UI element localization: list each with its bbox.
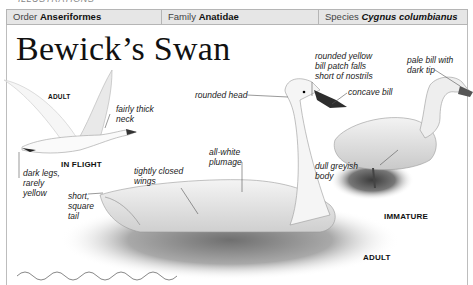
- label-line: dark legs,: [23, 168, 60, 178]
- label-line: concave bill: [348, 87, 392, 97]
- label-line: rounded yellow: [315, 51, 373, 61]
- label-rounded-head: rounded head: [195, 90, 247, 100]
- label-all-white-plumage: all-white plumage: [209, 147, 242, 167]
- label-short-square-tail: short, square tail: [68, 191, 94, 221]
- label-line: all-white: [209, 147, 242, 157]
- caption-in-flight: IN FLIGHT: [61, 160, 102, 169]
- label-line: rarely: [23, 178, 60, 188]
- label-dark-legs: dark legs, rarely yellow: [23, 168, 60, 198]
- label-line: tightly closed: [134, 166, 183, 176]
- label-line: fairly thick: [116, 104, 154, 114]
- label-line: wings: [134, 176, 183, 186]
- label-line: dull greyish: [315, 161, 358, 171]
- label-line: body: [315, 171, 358, 181]
- label-bill-patch: rounded yellow bill patch falls short of…: [315, 51, 373, 81]
- caption-adult: ADULT: [363, 253, 391, 262]
- label-line: dark tip: [407, 65, 453, 75]
- label-line: rounded head: [195, 90, 247, 100]
- label-fairly-thick-neck: fairly thick neck: [116, 104, 154, 124]
- label-line: short,: [68, 191, 94, 201]
- label-line: square: [68, 201, 94, 211]
- label-line: yellow: [23, 188, 60, 198]
- label-line: neck: [116, 114, 154, 124]
- label-dull-greyish-body: dull greyish body: [315, 161, 358, 181]
- label-pale-bill: pale bill with dark tip: [407, 55, 453, 75]
- caption-immature: IMMATURE: [384, 212, 428, 221]
- label-concave-bill: concave bill: [348, 87, 392, 97]
- label-line: pale bill with: [407, 55, 453, 65]
- label-tightly-closed-wings: tightly closed wings: [134, 166, 183, 186]
- label-line: bill patch falls: [315, 61, 373, 71]
- label-line: short of nostrils: [315, 71, 373, 81]
- caption-flight-adult: ADULT: [48, 93, 71, 100]
- swan-illustrations: [0, 0, 473, 285]
- label-line: tail: [68, 211, 94, 221]
- label-line: plumage: [209, 157, 242, 167]
